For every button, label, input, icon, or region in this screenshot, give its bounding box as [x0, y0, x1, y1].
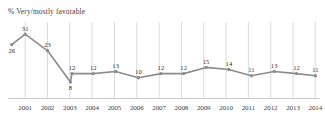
data-point-marker	[182, 72, 185, 75]
data-value-label: 26	[8, 47, 15, 54]
x-axis-tick-label: 2011	[242, 104, 255, 112]
data-point-marker	[295, 72, 298, 75]
data-value-label: 13	[271, 62, 278, 69]
x-axis-tick-label: 2008	[175, 104, 189, 112]
data-point-marker	[10, 43, 13, 46]
x-axis-tick-label: 2001	[18, 104, 32, 112]
data-value-labels: 2631238121213101212151411131211	[8, 25, 318, 92]
chart-title: % Very/mostly favorable	[8, 7, 85, 16]
data-point-marker	[70, 72, 73, 75]
x-axis-tick-label: 2002	[41, 104, 55, 112]
x-axis-tick-label: 2005	[108, 104, 122, 112]
plot-area: 2631238121213101212151411131211	[0, 22, 325, 102]
x-axis-tick-label: 2012	[264, 104, 278, 112]
x-axis-tick-label: 2007	[152, 104, 166, 112]
x-axis-tick-label: 2010	[219, 104, 233, 112]
x-axis-tick-labels: 2001200220032004200520062007200820092010…	[0, 104, 325, 118]
data-point-marker	[69, 80, 72, 83]
data-value-label: 14	[226, 60, 233, 67]
data-value-label: 13	[112, 62, 119, 69]
data-point-marker	[204, 66, 207, 69]
data-value-label: 31	[22, 25, 29, 32]
x-axis-tick-label: 2013	[286, 104, 300, 112]
data-value-label: 15	[203, 58, 210, 65]
x-axis-tick-label: 2006	[130, 104, 144, 112]
data-point-marker	[272, 70, 275, 73]
data-value-label: 11	[312, 66, 318, 73]
data-point-marker	[227, 68, 230, 71]
data-value-label: 10	[135, 68, 142, 75]
data-point-marker	[114, 70, 117, 73]
chart-container: % Very/mostly favorable 2631238121213101…	[0, 0, 325, 126]
data-point-marker	[314, 74, 317, 77]
x-axis-tick-label: 2004	[85, 104, 99, 112]
x-axis-tick-label: 2009	[197, 104, 211, 112]
data-value-label: 12	[90, 64, 97, 71]
data-value-label: 12	[158, 64, 165, 71]
data-line	[12, 34, 316, 82]
data-value-label: 12	[69, 64, 76, 71]
data-value-label: 23	[44, 41, 51, 48]
data-point-marker	[91, 72, 94, 75]
data-value-label: 8	[69, 84, 73, 91]
data-point-marker	[23, 33, 26, 36]
data-point-marker	[137, 76, 140, 79]
x-axis-tick-label: 2003	[63, 104, 77, 112]
x-axis-tick-label: 2014	[309, 104, 323, 112]
line-chart-svg: 2631238121213101212151411131211	[0, 22, 325, 102]
data-value-label: 11	[248, 66, 254, 73]
data-point-marker	[159, 72, 162, 75]
data-value-label: 12	[293, 64, 300, 71]
data-point-marker	[46, 49, 49, 52]
data-point-marker	[250, 74, 253, 77]
data-value-label: 12	[180, 64, 187, 71]
